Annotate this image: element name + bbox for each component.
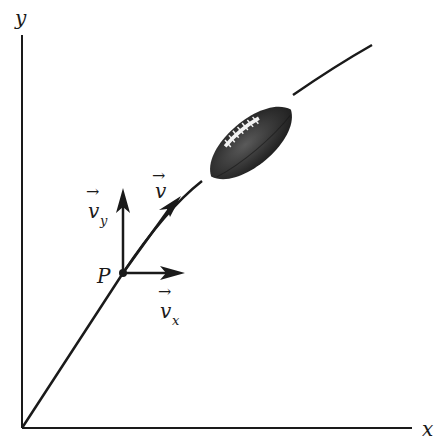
v-vector: → v	[123, 166, 181, 273]
y-axis-label: y	[14, 6, 27, 30]
vx-vector: → v x	[123, 266, 185, 328]
trajectory-lower	[22, 181, 202, 428]
v-label: v	[155, 179, 167, 203]
point-p-label: P	[96, 264, 111, 288]
football-icon	[197, 92, 306, 193]
trajectory-upper	[293, 45, 372, 95]
trajectory-diagram: y x P → v y →	[0, 0, 442, 443]
vx-label: v	[160, 299, 172, 323]
vy-subscript: y	[99, 213, 108, 228]
x-axis-label: x	[422, 417, 433, 441]
vy-label: v	[88, 199, 100, 223]
vx-subscript: x	[172, 313, 180, 328]
vy-vector: → v y	[86, 182, 130, 273]
axes: y x	[14, 6, 433, 441]
trajectory	[22, 45, 372, 428]
